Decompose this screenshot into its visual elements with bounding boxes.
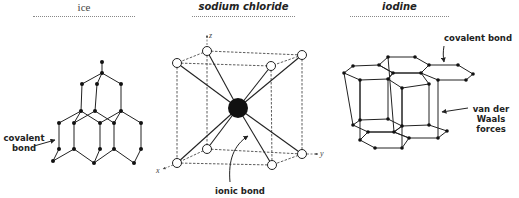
- van-der-waals-arrow-icon: [442, 108, 468, 112]
- iodine-covalent-arrow-icon: [443, 46, 444, 62]
- nacl-sodium-ion: [228, 98, 248, 118]
- ice-covalent-arrow-icon: [34, 140, 55, 146]
- crystal-structures-diagram: [0, 0, 519, 198]
- ionic-bond-arrow-icon: [230, 136, 248, 182]
- iodine-top-layer: [344, 57, 473, 88]
- ice-lattice: [53, 62, 141, 163]
- iodine-atoms: [342, 55, 475, 150]
